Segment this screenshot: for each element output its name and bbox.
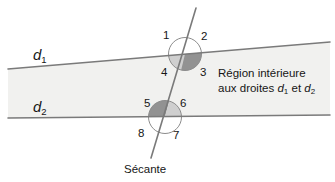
angle-label-5: 5 [144,98,150,110]
region-annotation-line1: Région intérieure [218,66,315,81]
angle-label-7: 7 [173,130,179,142]
angle-label-8: 8 [138,128,144,140]
label-secante: Sécante [124,164,166,176]
angle-label-2: 2 [201,31,207,43]
region-annotation-prefix: aux droites [218,82,277,94]
angle-label-4: 4 [161,67,167,79]
region-annotation: Région intérieure aux droites d1 et d2 [218,66,315,95]
angle-label-1: 1 [163,30,169,42]
region-annotation-mid: et [288,82,304,94]
label-line-d1: d1 [33,47,47,62]
angle-label-6: 6 [180,98,186,110]
region-annotation-line2: aux droites d1 et d2 [218,81,315,96]
region-annotation-d2: d2 [304,82,315,94]
label-line-d2: d2 [33,99,47,114]
angle-label-3: 3 [200,67,206,79]
geometry-figure: d1 d2 1 2 3 4 5 6 7 8 Région intérieure … [0,0,335,182]
region-annotation-d1: d1 [277,82,288,94]
